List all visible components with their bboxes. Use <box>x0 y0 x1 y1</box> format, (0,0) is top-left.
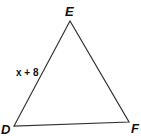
vertex-label-d: D <box>1 122 11 136</box>
triangle-diagram: E D F x + 8 <box>0 0 141 136</box>
vertex-label-f: F <box>131 121 140 136</box>
side-label-de: x + 8 <box>16 67 39 78</box>
vertex-label-e: E <box>65 4 74 19</box>
